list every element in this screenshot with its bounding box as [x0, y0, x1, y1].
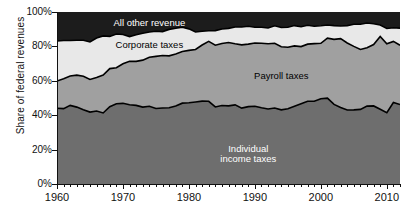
x-tick-mark: [261, 184, 262, 187]
series-inline-label-line: income taxes: [220, 154, 276, 165]
x-tick-mark: [116, 184, 117, 187]
x-tick-mark: [334, 184, 335, 187]
x-tick-mark: [374, 184, 375, 187]
y-tick-label: 80%: [32, 40, 52, 51]
x-tick-label: 1980: [177, 191, 201, 203]
x-tick-mark: [64, 184, 65, 187]
y-axis-line: [57, 12, 58, 185]
x-tick-mark: [143, 184, 144, 187]
x-tick-mark: [242, 184, 243, 187]
series-inline-label-line: Corporate taxes: [116, 40, 184, 51]
x-tick-mark: [57, 184, 58, 189]
x-tick-label: 2000: [309, 191, 333, 203]
y-axis-tick-labels: 100% 80% 60% 40% 20% 0%: [0, 0, 52, 218]
x-tick-mark: [235, 184, 236, 187]
x-tick-mark: [347, 184, 348, 187]
x-tick-mark: [97, 184, 98, 187]
x-tick-mark: [90, 184, 91, 187]
x-tick-mark: [367, 184, 368, 187]
x-tick-mark: [281, 184, 282, 187]
x-tick-mark: [202, 184, 203, 187]
chart-figure: Share of federal revenues 100% 80% 60% 4…: [0, 0, 403, 218]
x-tick-mark: [380, 184, 381, 187]
x-tick-mark: [393, 184, 394, 187]
series-inline-label-line: Individual: [220, 144, 276, 155]
x-tick-mark: [110, 184, 111, 187]
x-tick-mark: [215, 184, 216, 187]
series-inline-label: Corporate taxes: [116, 40, 184, 51]
series-inline-label-line: Payroll taxes: [254, 71, 308, 82]
x-tick-mark: [354, 184, 355, 187]
y-tick-label: 40%: [32, 109, 52, 120]
x-tick-mark: [288, 184, 289, 187]
x-tick-mark: [229, 184, 230, 187]
x-tick-mark: [136, 184, 137, 187]
x-tick-mark: [70, 184, 71, 187]
x-tick-mark: [308, 184, 309, 187]
y-tick-label: 60%: [32, 75, 52, 86]
x-tick-mark: [268, 184, 269, 187]
x-tick-mark: [77, 184, 78, 187]
x-tick-mark: [189, 184, 190, 189]
x-tick-label: 2010: [375, 191, 399, 203]
x-tick-mark: [294, 184, 295, 187]
area-band: [57, 98, 400, 184]
x-tick-label: 1970: [111, 191, 135, 203]
series-inline-label: Payroll taxes: [254, 71, 308, 82]
x-tick-mark: [83, 184, 84, 187]
x-tick-mark: [169, 184, 170, 187]
x-tick-mark: [321, 184, 322, 189]
x-tick-mark: [130, 184, 131, 187]
series-inline-label: Individualincome taxes: [220, 144, 276, 165]
x-tick-mark: [163, 184, 164, 187]
x-tick-mark: [222, 184, 223, 187]
x-tick-mark: [387, 184, 388, 189]
x-tick-mark: [360, 184, 361, 187]
y-tick-label: 100%: [26, 6, 52, 17]
x-tick-mark: [341, 184, 342, 187]
x-tick-mark: [103, 184, 104, 187]
x-tick-mark: [248, 184, 249, 187]
y-tick-label: 20%: [32, 144, 52, 155]
x-tick-mark: [301, 184, 302, 187]
x-tick-mark: [182, 184, 183, 187]
x-tick-label: 1960: [45, 191, 69, 203]
x-tick-mark: [123, 184, 124, 189]
x-tick-mark: [255, 184, 256, 189]
x-tick-mark: [149, 184, 150, 187]
x-tick-mark: [196, 184, 197, 187]
y-tick-label: 0%: [38, 178, 52, 189]
x-tick-mark: [314, 184, 315, 187]
x-tick-label: 1990: [243, 191, 267, 203]
x-tick-mark: [156, 184, 157, 187]
x-tick-mark: [400, 184, 401, 187]
series-inline-label: All other revenue: [113, 18, 185, 29]
x-tick-mark: [327, 184, 328, 187]
x-tick-mark: [176, 184, 177, 187]
series-inline-label-line: All other revenue: [113, 18, 185, 29]
x-tick-mark: [275, 184, 276, 187]
x-tick-mark: [209, 184, 210, 187]
